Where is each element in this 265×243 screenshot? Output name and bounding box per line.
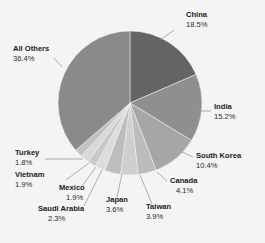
label-india-value: 15.2%: [214, 112, 236, 121]
label-vietnam-name: Vietnam: [15, 170, 45, 179]
label-japan-value: 3.6%: [106, 205, 124, 214]
leader-line-all-others: [54, 58, 62, 67]
leader-line-china: [160, 30, 174, 40]
label-mexico-value: 1.9%: [66, 193, 84, 202]
label-all-others-name: All Others: [13, 44, 49, 53]
label-saudi-arabia-name: Saudi Arabia: [38, 204, 85, 213]
label-taiwan-name: Taiwan: [146, 202, 172, 211]
label-south-korea-name: South Korea: [196, 151, 242, 160]
leader-line-japan: [117, 174, 122, 197]
label-vietnam-value: 1.9%: [15, 180, 33, 189]
leader-line-taiwan: [140, 175, 152, 204]
leader-line-saudi: [84, 170, 102, 206]
label-mexico-name: Mexico: [59, 183, 85, 192]
label-taiwan-value: 3.9%: [146, 212, 164, 221]
leader-line-vietnam: [66, 163, 89, 180]
label-turkey-value: 1.8%: [15, 158, 33, 167]
leader-line-south-korea: [182, 152, 193, 157]
label-japan-name: Japan: [106, 195, 128, 204]
label-china-name: China: [186, 10, 208, 19]
label-turkey-name: Turkey: [15, 148, 40, 157]
pie-slice-group: [58, 31, 202, 175]
label-saudi-arabia-value: 2.3%: [48, 214, 66, 223]
label-all-others-value: 36.4%: [13, 54, 35, 63]
label-canada-value: 4.1%: [176, 186, 194, 195]
label-canada-name: Canada: [170, 176, 198, 185]
pie-chart-svg: China 18.5% India 15.2% South Korea 10.4…: [0, 0, 265, 243]
label-china-value: 18.5%: [186, 20, 208, 29]
label-india-name: India: [214, 102, 232, 111]
leader-line-canada: [157, 172, 167, 181]
label-south-korea-value: 10.4%: [196, 161, 218, 170]
pie-chart-figure: China 18.5% India 15.2% South Korea 10.4…: [0, 0, 265, 243]
